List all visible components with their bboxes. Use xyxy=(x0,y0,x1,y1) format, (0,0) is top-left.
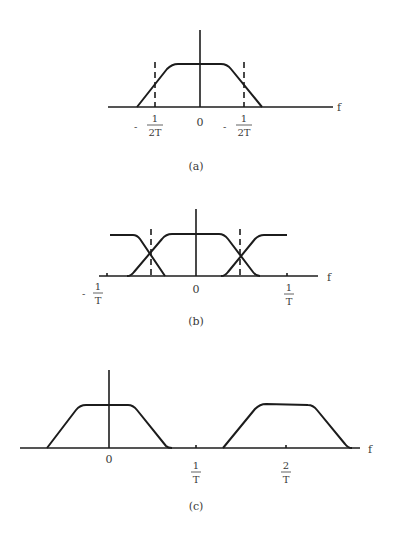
spectrum-replica-left-b xyxy=(110,235,165,276)
svg-text:-: - xyxy=(82,288,85,299)
tick-label-neg-half-T-left: - 1 2T xyxy=(134,113,163,138)
svg-text:-: - xyxy=(134,121,137,132)
axis-label-f-c: f xyxy=(368,443,373,456)
tick-label-two-over-T-c: 2 T xyxy=(281,460,291,485)
tick-label-zero-b: 0 xyxy=(193,283,200,296)
axis-label-f-b: f xyxy=(327,271,332,284)
svg-text:2T: 2T xyxy=(148,127,161,138)
svg-text:T: T xyxy=(95,295,102,306)
spectrum-figure: f - 1 2T 0 - 1 2T (a) f - xyxy=(0,0,393,534)
tick-label-one-over-T-b: 1 T xyxy=(284,282,294,307)
tick-label-neg-one-over-T: - 1 T xyxy=(82,281,103,306)
spectrum-replica-right-b xyxy=(221,235,287,276)
svg-text:T: T xyxy=(286,296,293,307)
svg-text:T: T xyxy=(193,474,200,485)
tick-label-zero-a: 0 xyxy=(197,116,204,129)
tick-label-zero-c: 0 xyxy=(106,453,113,466)
svg-text:1: 1 xyxy=(193,460,199,471)
spectrum-lobe-shifted-c xyxy=(223,404,352,448)
svg-text:T: T xyxy=(283,474,290,485)
caption-b: (b) xyxy=(188,315,204,328)
svg-text:2T: 2T xyxy=(237,127,250,138)
tick-label-one-over-T-c: 1 T xyxy=(191,460,201,485)
tick-label-neg-half-T-right: - 1 2T xyxy=(223,113,252,138)
axis-label-f-a: f xyxy=(337,101,342,114)
svg-text:2: 2 xyxy=(283,460,289,471)
svg-text:1: 1 xyxy=(241,113,247,124)
caption-c: (c) xyxy=(189,500,204,513)
panel-c: f 0 1 T 2 T (c) xyxy=(20,370,373,513)
caption-a: (a) xyxy=(188,160,203,173)
panel-a: f - 1 2T 0 - 1 2T (a) xyxy=(108,30,342,173)
svg-text:1: 1 xyxy=(286,282,292,293)
panel-b: f - 1 T 0 1 T (b) xyxy=(82,209,332,328)
svg-text:1: 1 xyxy=(95,281,101,292)
svg-text:-: - xyxy=(223,121,226,132)
svg-text:1: 1 xyxy=(152,113,158,124)
